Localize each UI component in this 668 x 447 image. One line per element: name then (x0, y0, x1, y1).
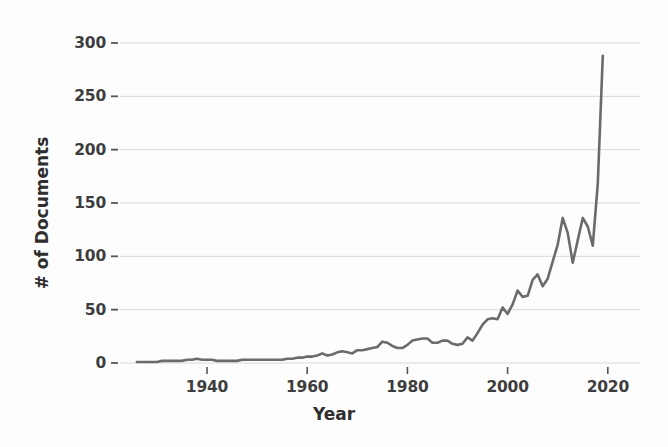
x-axis-title: Year (0, 404, 668, 424)
x-tick-label: 2000 (486, 378, 528, 396)
y-tick-label: 300 (22, 34, 106, 52)
y-tick-marks-group (111, 43, 118, 363)
x-tick-marks-group (207, 367, 608, 374)
chart-figure: 050100150200250300 19401960198020002020 … (0, 0, 668, 447)
gridlines-group (120, 43, 640, 363)
x-tick-label: 1940 (186, 378, 228, 396)
data-series-line (137, 56, 603, 362)
x-tick-label: 2020 (587, 378, 629, 396)
y-axis-title: # of Documents (32, 93, 52, 333)
x-tick-label: 1960 (286, 378, 328, 396)
x-tick-label: 1980 (386, 378, 428, 396)
line-chart-plot (0, 0, 668, 447)
y-tick-label: 0 (22, 354, 106, 372)
